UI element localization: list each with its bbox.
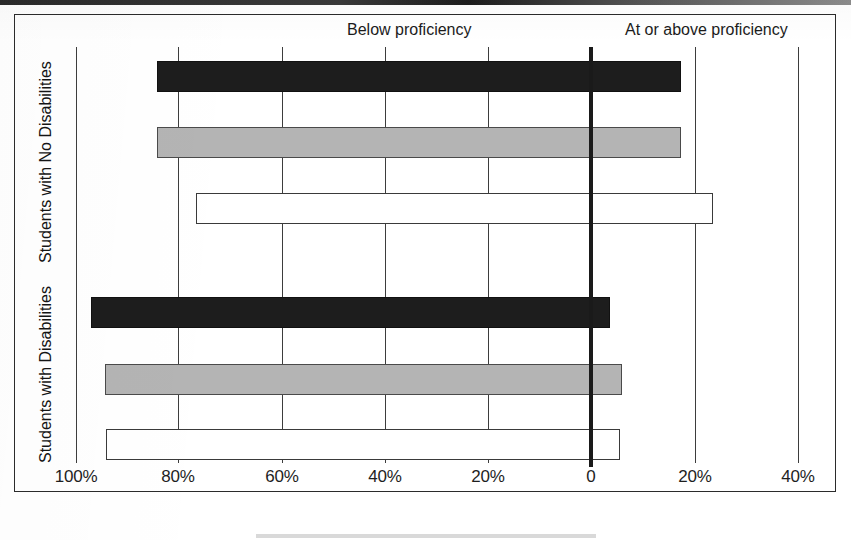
gridline-zero [589, 47, 593, 467]
gridline-minus-100 [76, 47, 77, 463]
tick-label-zero: 0 [586, 467, 595, 487]
scan-bottom-strip [256, 534, 596, 538]
group-label-students-with-disabilities: Students with Disabilities [37, 286, 55, 463]
at-or-above-proficiency-header: At or above proficiency [625, 21, 788, 39]
bar-disabilities-white [106, 429, 620, 460]
gridline-plus-40 [798, 47, 799, 463]
gridline-minus-60 [282, 47, 283, 463]
gridline-plus-20 [695, 47, 696, 463]
scan-top-edge [0, 0, 851, 5]
bar-no-disabilities-black [157, 61, 681, 92]
gridline-minus-80 [178, 47, 179, 463]
tick-label-minus-80: 80% [161, 467, 194, 487]
gridline-minus-40 [385, 47, 386, 463]
tick-label-plus-20: 20% [678, 467, 711, 487]
bar-disabilities-gray [105, 364, 622, 395]
below-proficiency-header: Below proficiency [347, 21, 472, 39]
tick-label-minus-100: 100% [55, 467, 98, 487]
gridline-minus-20 [488, 47, 489, 463]
group-label-students-with-no-disabilities: Students with No Disabilities [37, 61, 55, 263]
bar-no-disabilities-gray [157, 127, 681, 158]
tick-label-minus-60: 60% [265, 467, 298, 487]
tick-label-minus-20: 20% [471, 467, 504, 487]
bar-disabilities-black [91, 297, 610, 328]
bar-no-disabilities-white [196, 193, 713, 224]
tick-label-minus-40: 40% [368, 467, 401, 487]
chart-frame: Below proficiency At or above proficienc… [14, 14, 836, 492]
plot-area: Below proficiency At or above proficienc… [15, 15, 835, 491]
tick-label-plus-40: 40% [781, 467, 814, 487]
